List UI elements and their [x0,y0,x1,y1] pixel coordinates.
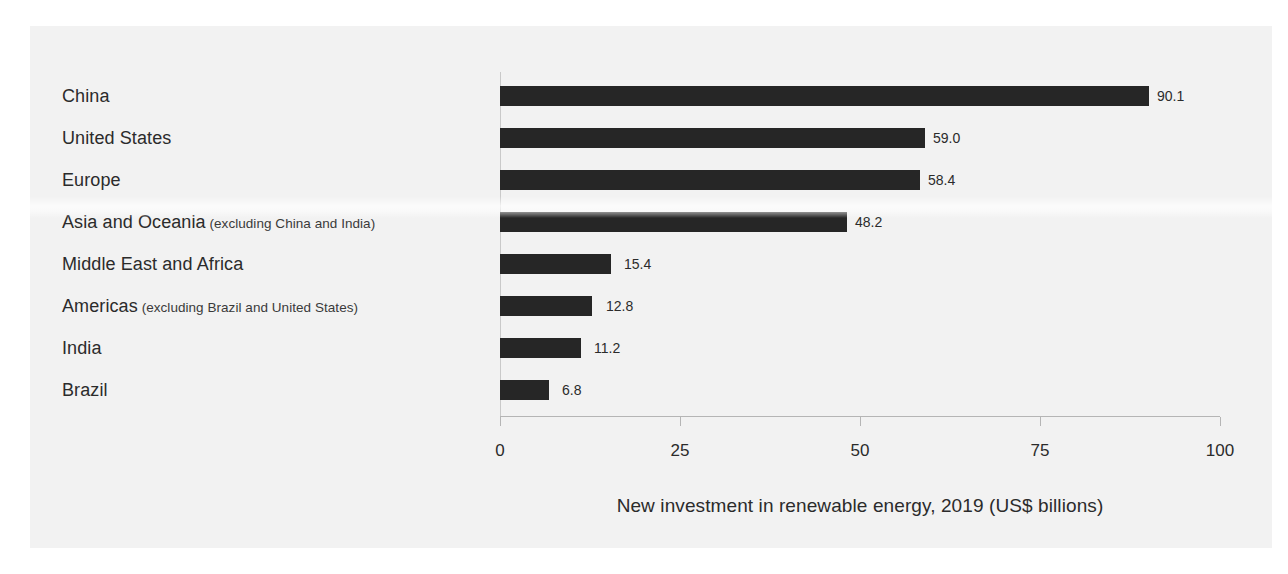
category-label-americas: Americas (excluding Brazil and United St… [62,294,358,318]
category-label-text: Brazil [62,380,108,400]
category-label-text: Middle East and Africa [62,254,243,274]
bar-value-asia-and-oceania: 48.2 [855,212,882,232]
bar-india [500,338,581,358]
bar-brazil [500,380,549,400]
x-tick-mark-0 [500,417,501,426]
bar-value-united-states: 59.0 [933,128,960,148]
bar-chart: China United States Europe Asia and Ocea… [0,0,1288,574]
x-axis-title: New investment in renewable energy, 2019… [500,495,1220,517]
category-label-middle-east-and-africa: Middle East and Africa [62,252,243,276]
x-tick-mark-100 [1220,417,1221,426]
x-tick-mark-25 [680,417,681,426]
bar-asia-and-oceania [500,212,847,232]
category-label-text: United States [62,128,171,148]
bar-united-states [500,128,925,148]
bar-americas [500,296,592,316]
bar-china [500,86,1149,106]
x-tick-mark-50 [860,417,861,426]
category-label-text: Europe [62,170,121,190]
category-label-europe: Europe [62,168,121,192]
category-label-text: Asia and Oceania [62,212,206,232]
category-label-text: China [62,86,110,106]
category-label-china: China [62,84,110,108]
bar-europe [500,170,920,190]
x-tick-label-25: 25 [671,440,690,462]
x-tick-label-0: 0 [495,440,504,462]
bar-value-brazil: 6.8 [562,380,581,400]
category-label-india: India [62,336,102,360]
bar-value-europe: 58.4 [928,170,955,190]
bar-value-middle-east-and-africa: 15.4 [624,254,651,274]
category-label-note: (excluding China and India) [206,216,376,231]
category-label-united-states: United States [62,126,171,150]
category-label-brazil: Brazil [62,378,108,402]
chart-page: China United States Europe Asia and Ocea… [0,0,1288,574]
category-label-text: India [62,338,102,358]
x-tick-label-50: 50 [851,440,870,462]
bar-value-americas: 12.8 [606,296,633,316]
category-label-note: (excluding Brazil and United States) [138,300,358,315]
bar-value-india: 11.2 [594,338,620,358]
x-tick-label-75: 75 [1031,440,1050,462]
bar-middle-east-and-africa [500,254,611,274]
x-tick-mark-75 [1040,417,1041,426]
category-label-text: Americas [62,296,138,316]
x-tick-label-100: 100 [1206,440,1234,462]
plot-area: 90.1 59.0 58.4 48.2 15.4 12.8 11.2 6.8 [500,72,1220,416]
category-label-asia-and-oceania: Asia and Oceania (excluding China and In… [62,210,375,234]
bar-value-china: 90.1 [1157,86,1184,106]
